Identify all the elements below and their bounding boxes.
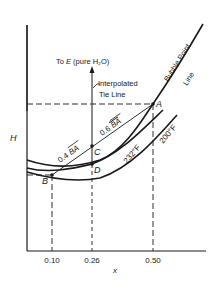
to-e-label: To E (pure H₂O) [56, 57, 110, 66]
enthalpy-concentration-diagram: A B C D H x 0.10 0.26 0.50 To E (pure H₂… [0, 0, 216, 291]
seg-04-ba: BA [67, 143, 81, 156]
segment-0.4-BA-label: 0.4 BA [56, 143, 81, 164]
to-e-prefix: To [56, 57, 66, 66]
x-tick-0.50: 0.50 [145, 256, 161, 265]
y-axis-label: H [10, 133, 17, 143]
to-e-suffix: (pure H₂O) [71, 57, 110, 66]
label-B: B [42, 176, 48, 186]
x-tick-0.10: 0.10 [44, 256, 60, 265]
interpolated-label-1: Interpolated [98, 79, 138, 88]
label-D: D [94, 165, 101, 175]
seg-06-ba: BA [109, 116, 123, 129]
point-B [50, 173, 54, 177]
x-tick-0.26: 0.26 [84, 256, 100, 265]
label-C: C [94, 147, 101, 157]
tie-line-BA [52, 104, 153, 175]
x-axis-label: x [112, 266, 118, 275]
label-A: A [155, 99, 162, 109]
arrow-up-icon [90, 66, 95, 73]
diagram-canvas: A B C D H x 0.10 0.26 0.50 To E (pure H₂… [0, 0, 216, 291]
point-A [151, 102, 155, 106]
interpolated-label-2: Tie Line [99, 90, 125, 99]
temp-200-label: 200°F [158, 123, 179, 145]
bubble-point-label-2: Line [181, 70, 196, 87]
